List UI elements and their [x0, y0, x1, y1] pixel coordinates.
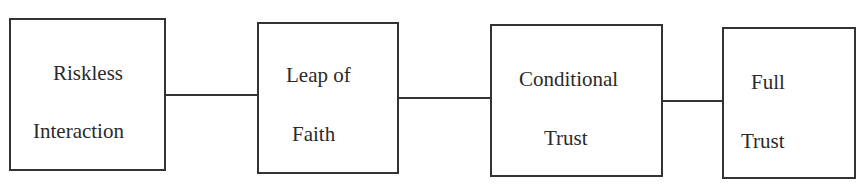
- node-conditional-trust-line1: Conditional: [519, 69, 618, 90]
- connector-leap-to-conditional: [397, 97, 491, 99]
- connector-conditional-to-full: [662, 100, 724, 102]
- node-full-trust: [722, 27, 856, 179]
- node-riskless-interaction-line2: Interaction: [33, 121, 124, 142]
- node-conditional-trust-line2: Trust: [544, 128, 588, 149]
- node-leap-of-faith-line1: Leap of: [286, 65, 351, 86]
- node-leap-of-faith: [257, 22, 399, 174]
- node-conditional-trust: [490, 24, 663, 177]
- connector-riskless-to-leap: [165, 94, 258, 96]
- node-full-trust-line2: Trust: [741, 131, 785, 152]
- node-full-trust-line1: Full: [751, 72, 785, 93]
- node-riskless-interaction: [9, 18, 166, 171]
- node-leap-of-faith-line2: Faith: [292, 124, 335, 145]
- node-riskless-interaction-line1: Riskless: [53, 63, 123, 84]
